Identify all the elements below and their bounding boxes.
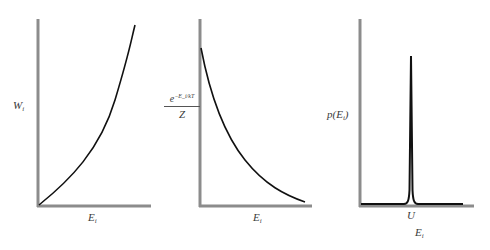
xlabel-text: E — [253, 211, 260, 223]
ylabel-close: ) — [345, 108, 349, 120]
fraction-denominator: Z — [164, 109, 200, 120]
ylabel-subscript: i — [22, 105, 24, 113]
diagram-canvas — [0, 0, 490, 250]
fraction-numerator: e−E_i/kT — [164, 93, 200, 104]
ylabel-p: p(Ei) — [327, 109, 349, 122]
ylabel-boltzmann-fraction: e−E_i/kT Z — [164, 93, 200, 120]
xlabel-text: E — [88, 211, 95, 223]
xlabel-subscript: i — [95, 217, 97, 225]
chart-boltzmann-factor — [199, 19, 312, 207]
peak-text: U — [407, 209, 415, 221]
chart-degeneracy — [37, 19, 151, 207]
ylabel-text: W — [13, 99, 22, 111]
xlabel-subscript: i — [260, 217, 262, 225]
ylabel-text: p(E — [327, 108, 343, 120]
peak-label-u: U — [407, 210, 415, 221]
numerator-exponent: −E_i/kT — [174, 93, 194, 99]
xlabel-text: E — [415, 226, 422, 238]
xlabel-e3: Ei — [415, 227, 424, 240]
ylabel-w: Wi — [13, 100, 24, 113]
xlabel-subscript: i — [422, 232, 424, 240]
fraction-bar — [164, 106, 200, 107]
xlabel-e1: Ei — [88, 212, 97, 225]
curve-probability — [361, 56, 463, 204]
xlabel-e2: Ei — [253, 212, 262, 225]
curve-w — [39, 25, 135, 205]
curve-boltzmann — [201, 48, 305, 202]
chart-probability — [359, 19, 474, 207]
